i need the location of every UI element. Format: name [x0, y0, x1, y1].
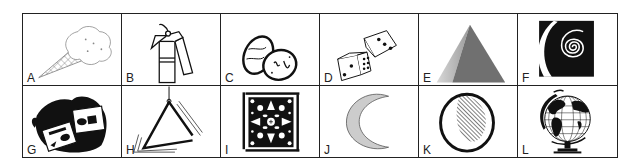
- cassette-tapes-icon: [23, 86, 121, 158]
- crescent-moon-icon: [320, 86, 418, 158]
- dice-icon: [320, 14, 418, 85]
- ornamental-tile-icon: [221, 86, 319, 158]
- grid-cell-b[interactable]: B: [122, 14, 221, 86]
- cell-label: D: [324, 72, 333, 84]
- globe-icon: [518, 86, 617, 158]
- cell-label: I: [225, 144, 228, 156]
- easter-eggs-icon: [221, 14, 319, 85]
- grid-cell-g[interactable]: G: [23, 86, 122, 158]
- grid-cell-c[interactable]: C: [221, 14, 320, 86]
- cell-label: A: [27, 72, 35, 84]
- grid-cell-i[interactable]: I: [221, 86, 320, 158]
- triangle-instrument-icon: [122, 86, 220, 158]
- grid-cell-k[interactable]: K: [419, 86, 518, 158]
- grid-cell-a[interactable]: A: [23, 14, 122, 86]
- grid-cell-d[interactable]: D: [320, 14, 419, 86]
- grid-cell-h[interactable]: H: [122, 86, 221, 158]
- grid-cell-f[interactable]: F: [518, 14, 617, 86]
- fire-extinguisher-icon: [122, 14, 220, 85]
- cell-label: F: [522, 72, 529, 84]
- cell-label: K: [423, 144, 431, 156]
- ice-cream-cone-icon: [23, 14, 121, 85]
- cell-label: C: [225, 72, 234, 84]
- cell-label: J: [324, 144, 330, 156]
- cell-label: H: [126, 144, 135, 156]
- cell-label: E: [423, 72, 431, 84]
- pyramid-icon: [419, 14, 517, 85]
- spiral-icon: [518, 14, 617, 85]
- cell-label: G: [27, 144, 36, 156]
- grid-cell-e[interactable]: E: [419, 14, 518, 86]
- cell-label: B: [126, 72, 134, 84]
- picture-grid: A B: [22, 13, 618, 158]
- grid-cell-l[interactable]: L: [518, 86, 617, 158]
- grid-cell-j[interactable]: J: [320, 86, 419, 158]
- cell-label: L: [522, 144, 529, 156]
- moon-phase-icon: [419, 86, 517, 158]
